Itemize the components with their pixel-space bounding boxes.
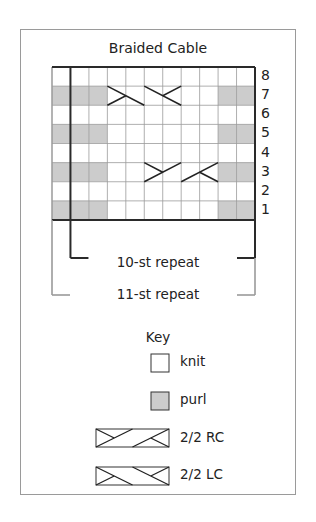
knit-cell [218,105,236,124]
knit-cell [126,163,144,182]
knit-cell [126,67,144,86]
knit-cell [70,67,88,86]
knit-cell [200,144,218,163]
purl-cell [52,86,70,105]
row-number-5: 5 [261,123,270,142]
knit-cell [89,182,107,201]
knit-cell [181,163,199,182]
knit-cell [163,144,181,163]
knit-cell [200,105,218,124]
row-number-2: 2 [261,181,270,200]
purl-cell [70,163,88,182]
knit-cell [163,182,181,201]
purl-cell [70,201,88,220]
knit-cell [163,67,181,86]
row-number-3: 3 [261,162,270,181]
knit-cell [200,67,218,86]
knit-cell [237,144,255,163]
knit-cell [126,182,144,201]
row-number-6: 6 [261,104,270,123]
knit-cell [144,124,162,143]
knit-cell [144,86,162,105]
knit-cell [163,124,181,143]
knit-cell [200,163,218,182]
knit-cell [144,163,162,182]
knit-cell [107,86,125,105]
row-number-4: 4 [261,143,270,162]
key-label-lc: 2/2 LC [180,466,223,482]
key-title: Key [0,329,316,345]
purl-cell [89,201,107,220]
knit-cell [70,182,88,201]
knit-cell [70,144,88,163]
purl-cell [89,124,107,143]
knit-cell [163,163,181,182]
knit-cell [218,67,236,86]
repeat-10-label: 10-st repeat [0,254,316,270]
knit-cell [52,144,70,163]
knit-cell [89,144,107,163]
purl-cell [218,124,236,143]
knit-cell [126,86,144,105]
knit-cell [144,144,162,163]
key-label-purl: purl [180,391,206,407]
knit-cell [163,105,181,124]
purl-cell [218,201,236,220]
knit-cell [144,182,162,201]
knit-cell [237,105,255,124]
knit-cell [126,105,144,124]
knit-cell [144,201,162,220]
knit-cell [218,182,236,201]
knit-cell [70,105,88,124]
knit-cell [200,124,218,143]
purl-cell [237,201,255,220]
knit-cell [200,182,218,201]
rc-cable-symbol-icon [96,429,169,447]
knit-cell [126,124,144,143]
purl-cell [237,163,255,182]
key-label-rc: 2/2 RC [180,429,224,445]
purl-cell [218,163,236,182]
knit-cell [181,182,199,201]
knit-cell [52,182,70,201]
knit-cell [52,105,70,124]
lc-box [96,467,169,485]
purl-cell [52,201,70,220]
purl-cell [218,86,236,105]
knit-cell [181,201,199,220]
rc-box [96,429,169,447]
knit-cell [89,105,107,124]
row-number-7: 7 [261,85,270,104]
knit-cell [181,144,199,163]
purl-cell [89,86,107,105]
knit-cell [181,67,199,86]
purl-cell [237,124,255,143]
knit-cell [107,163,125,182]
row-number-8: 8 [261,66,270,85]
purl-symbol-icon [151,392,169,410]
row-number-1: 1 [261,200,270,219]
repeat-11-label: 11-st repeat [0,286,316,302]
knit-cell [218,144,236,163]
knit-cell [89,67,107,86]
purl-cell [70,124,88,143]
knit-cell [144,105,162,124]
knit-cell [237,67,255,86]
purl-cell [52,124,70,143]
knit-cell [200,201,218,220]
knit-cell [107,105,125,124]
purl-cell [70,86,88,105]
knit-cell [126,201,144,220]
knit-cell [107,144,125,163]
knit-cell [52,67,70,86]
purl-cell [89,163,107,182]
knit-cell [181,86,199,105]
key-label-knit: knit [180,353,205,369]
knit-cell [163,86,181,105]
knit-cell [107,67,125,86]
purl-cell [237,86,255,105]
lc-cable-symbol-icon [96,467,169,485]
knit-cell [107,182,125,201]
purl-cell [52,163,70,182]
knit-cell [181,105,199,124]
